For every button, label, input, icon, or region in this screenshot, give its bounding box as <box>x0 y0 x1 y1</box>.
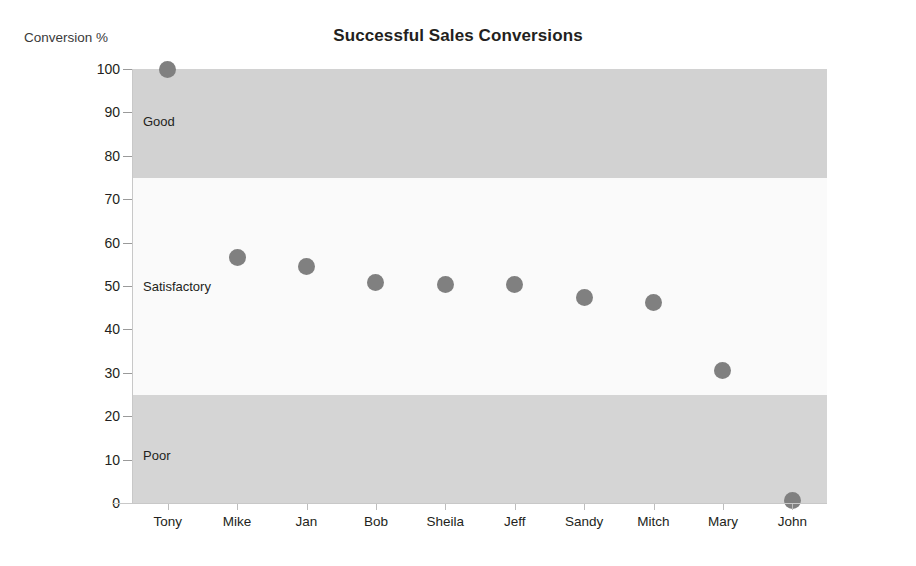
y-tick-label-70: 70 <box>20 191 120 207</box>
y-tick-label-80: 80 <box>20 148 120 164</box>
band-good <box>133 69 827 178</box>
scatter-chart: Successful Sales Conversions Conversion … <box>0 0 916 566</box>
data-point-tony <box>159 61 176 78</box>
y-tick-80 <box>123 156 132 157</box>
x-tick-label-john: John <box>778 514 807 529</box>
y-tick-label-0: 0 <box>20 495 120 511</box>
data-point-jan <box>298 258 315 275</box>
y-axis-tick-labels: 1009080706050403020100 <box>10 0 120 566</box>
y-tick-label-40: 40 <box>20 321 120 337</box>
y-tick-label-20: 20 <box>20 408 120 424</box>
x-tick-label-sandy: Sandy <box>565 514 603 529</box>
data-point-mike <box>229 249 246 266</box>
data-point-jeff <box>506 276 523 293</box>
x-tick-mary <box>723 504 724 510</box>
x-tick-label-mike: Mike <box>223 514 252 529</box>
x-tick-label-jeff: Jeff <box>504 514 526 529</box>
y-tick-20 <box>123 416 132 417</box>
band-label-satisfactory: Satisfactory <box>143 279 211 294</box>
y-tick-60 <box>123 243 132 244</box>
x-tick-bob <box>376 504 377 510</box>
y-tick-50 <box>123 286 132 287</box>
x-tick-john <box>792 504 793 510</box>
x-tick-mitch <box>654 504 655 510</box>
band-label-good: Good <box>143 114 175 129</box>
y-tick-label-30: 30 <box>20 365 120 381</box>
band-label-poor: Poor <box>143 448 170 463</box>
x-tick-label-mary: Mary <box>708 514 738 529</box>
band-poor <box>133 395 827 504</box>
chart-title: Successful Sales Conversions <box>0 26 916 46</box>
y-axis-line <box>132 69 133 504</box>
data-point-sandy <box>576 289 593 306</box>
y-tick-label-10: 10 <box>20 452 120 468</box>
y-tick-label-90: 90 <box>20 104 120 120</box>
x-tick-mike <box>237 504 238 510</box>
x-tick-sandy <box>584 504 585 510</box>
x-tick-label-mitch: Mitch <box>637 514 669 529</box>
x-tick-label-tony: Tony <box>153 514 182 529</box>
x-tick-label-jan: Jan <box>296 514 318 529</box>
y-tick-30 <box>123 373 132 374</box>
y-tick-label-50: 50 <box>20 278 120 294</box>
x-tick-jeff <box>515 504 516 510</box>
y-tick-label-100: 100 <box>20 61 120 77</box>
x-axis-line <box>113 503 827 504</box>
y-tick-100 <box>123 69 132 70</box>
y-tick-70 <box>123 199 132 200</box>
x-tick-tony <box>168 504 169 510</box>
y-tick-10 <box>123 460 132 461</box>
y-tick-40 <box>123 329 132 330</box>
y-tick-label-60: 60 <box>20 235 120 251</box>
y-tick-90 <box>123 112 132 113</box>
x-tick-label-bob: Bob <box>364 514 388 529</box>
data-point-mary <box>714 362 731 379</box>
x-tick-jan <box>307 504 308 510</box>
x-tick-sheila <box>445 504 446 510</box>
plot-area: GoodSatisfactoryPoor <box>133 69 827 503</box>
data-point-mitch <box>645 294 662 311</box>
x-tick-label-sheila: Sheila <box>427 514 465 529</box>
data-point-sheila <box>437 276 454 293</box>
